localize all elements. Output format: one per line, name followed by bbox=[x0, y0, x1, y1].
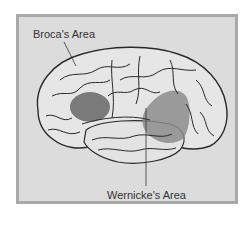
wernicke-area-label: Wernicke's Area bbox=[107, 189, 186, 201]
broca-region bbox=[70, 92, 110, 122]
broca-area-label: Broca's Area bbox=[33, 28, 95, 40]
